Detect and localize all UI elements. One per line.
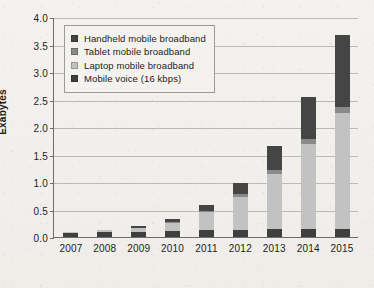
y-axis-tick-label: 0.0 [33,233,48,244]
x-axis-tick-label: 2007 [59,243,82,254]
bar-segment[interactable] [301,144,316,229]
bar-segment[interactable] [267,229,282,237]
bar-stack[interactable] [63,232,78,237]
bar-segment[interactable] [233,183,248,194]
y-axis-tick [50,238,54,239]
bar-stack[interactable] [267,146,282,237]
y-axis-tick-label: 1.0 [33,178,48,189]
bar-segment[interactable] [233,230,248,237]
x-axis-tick-label: 2011 [195,243,217,254]
bar-segment[interactable] [131,232,146,238]
bar-segment[interactable] [165,223,180,231]
bar-segment[interactable] [335,35,350,107]
bar-segment[interactable] [335,113,350,229]
bar-segment[interactable] [165,231,180,237]
x-axis-tick-label: 2009 [127,243,150,254]
y-axis-tick-label: 3.5 [33,40,48,51]
bar-segment[interactable] [335,229,350,237]
x-axis-tick-label: 2008 [93,243,116,254]
y-axis-tick-label: 2.0 [33,123,48,134]
bar-stack[interactable] [97,230,112,237]
legend-swatch-icon [71,62,78,69]
bar-stack[interactable] [301,97,316,237]
bar-segment[interactable] [63,233,78,237]
legend-swatch-icon [71,48,78,55]
legend-item-label: Tablet mobile broadband [84,46,190,57]
bar-segment[interactable] [233,197,248,230]
legend-item[interactable]: Tablet mobile broadband [71,46,206,57]
y-axis-title: Exabytes [0,89,8,135]
legend-item-label: Laptop mobile broadband [84,60,194,71]
bar-stack[interactable] [199,205,214,237]
legend-item-label: Mobile voice (16 kbps) [84,73,181,84]
bar-segment[interactable] [267,174,282,230]
legend-swatch-icon [71,35,78,42]
y-axis-tick-label: 1.5 [33,150,48,161]
chart-page: Exabytes 0.00.51.01.52.02.53.03.54.0 200… [0,0,374,288]
bar-stack[interactable] [233,183,248,237]
y-axis-tick-label: 0.5 [33,205,48,216]
x-axis-tick-label: 2014 [297,243,320,254]
y-axis-tick-label: 2.5 [33,95,48,106]
bar-segment[interactable] [97,232,112,237]
legend-item[interactable]: Mobile voice (16 kbps) [71,73,206,84]
bar-segment[interactable] [267,146,282,170]
legend-item[interactable]: Handheld mobile broadband [71,33,206,44]
bar-segment[interactable] [199,212,214,230]
y-axis-tick-label: 4.0 [33,13,48,24]
bar-stack[interactable] [131,226,146,237]
legend-item[interactable]: Laptop mobile broadband [71,60,206,71]
y-axis-tick-label: 3.0 [33,68,48,79]
legend-item-label: Handheld mobile broadband [84,33,206,44]
x-axis-tick-label: 2013 [263,243,286,254]
bar-stack[interactable] [335,35,350,237]
bar-segment[interactable] [301,229,316,237]
chart-legend: Handheld mobile broadbandTablet mobile b… [64,25,215,93]
x-axis-tick-label: 2012 [229,243,252,254]
x-axis-tick-label: 2015 [331,243,354,254]
bar-stack[interactable] [165,219,180,237]
x-axis-tick-label: 2010 [161,243,184,254]
legend-swatch-icon [71,75,78,82]
bar-segment[interactable] [199,230,214,237]
bar-segment[interactable] [301,97,316,138]
